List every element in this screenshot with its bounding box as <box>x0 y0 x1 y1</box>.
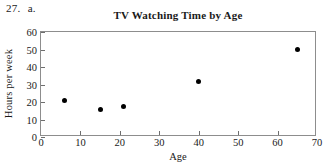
x-axis-tick-label: 20 <box>115 137 126 148</box>
y-axis-tick-label: 0 <box>32 132 37 143</box>
y-axis-tick <box>41 50 45 51</box>
y-axis-tick-label: 50 <box>27 44 38 55</box>
data-point <box>62 98 67 103</box>
y-axis-title-text: Hours per week <box>4 49 15 118</box>
problem-part-label: a. <box>28 2 36 14</box>
y-axis-tick <box>41 102 45 103</box>
y-axis-tick <box>41 85 45 86</box>
problem-label: 27.a. <box>6 2 36 14</box>
x-axis-tick-label: 0 <box>38 137 43 148</box>
figure: 27.a. TV Watching Time by Age Hours per … <box>0 0 324 167</box>
x-axis-tick-label: 60 <box>272 137 283 148</box>
problem-number: 27. <box>6 2 21 14</box>
x-axis-tick-label: 10 <box>75 137 86 148</box>
data-point <box>196 79 201 84</box>
data-point <box>121 104 126 109</box>
x-axis-tick <box>80 131 81 135</box>
x-axis-tick-label: 30 <box>154 137 165 148</box>
y-axis-tick-label: 10 <box>27 114 38 125</box>
y-axis-title: Hours per week <box>2 31 16 136</box>
x-axis-tick <box>238 131 239 135</box>
x-axis-tick-label: 70 <box>312 137 323 148</box>
y-axis-tick <box>41 32 45 33</box>
y-axis-tick-label: 20 <box>27 97 38 108</box>
y-axis-tick <box>41 120 45 121</box>
plot-area: 0102030405060010203040506070 <box>40 31 316 136</box>
x-axis-tick <box>159 131 160 135</box>
x-axis-tick <box>120 131 121 135</box>
x-axis-tick <box>199 131 200 135</box>
x-axis-title: Age <box>40 151 316 162</box>
plot-inner: 0102030405060010203040506070 <box>41 32 315 135</box>
data-point <box>295 47 300 52</box>
chart-title: TV Watching Time by Age <box>40 9 316 21</box>
y-axis-tick <box>41 67 45 68</box>
data-point <box>98 107 103 112</box>
x-axis-tick-label: 40 <box>193 137 204 148</box>
y-axis-tick-label: 30 <box>27 79 38 90</box>
y-axis-tick-label: 40 <box>27 62 38 73</box>
y-axis-tick-label: 60 <box>27 27 38 38</box>
x-axis-tick-label: 50 <box>233 137 244 148</box>
x-axis-tick <box>278 131 279 135</box>
